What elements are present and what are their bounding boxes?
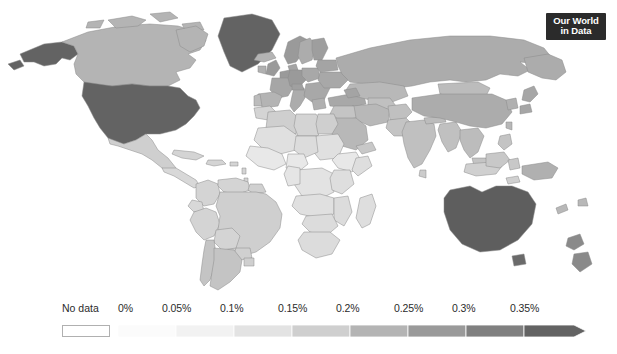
legend-bin-2[interactable] xyxy=(234,325,292,337)
country-japan[interactable] xyxy=(520,86,538,114)
legend-tick-7: 0.35% xyxy=(510,302,539,314)
legend-gradient-bar[interactable] xyxy=(118,325,582,337)
country-fiji[interactable] xyxy=(578,198,588,206)
country-india[interactable] xyxy=(402,120,436,168)
country-bangladesh-myanmar[interactable] xyxy=(438,122,462,152)
map-legend: No data 0%0.05%0.1%0.15%0.2%0.25%0.3%0.3… xyxy=(0,300,617,354)
country-cuba[interactable] xyxy=(172,150,204,160)
country-sulawesi[interactable] xyxy=(508,158,520,170)
legend-gradient-svg xyxy=(118,325,592,337)
country-uk[interactable] xyxy=(266,60,280,76)
choropleth-map-chart: Our World in Data No data 0%0.05%0.1%0.1… xyxy=(0,0,617,354)
country-puerto-rico[interactable] xyxy=(230,162,238,166)
country-south-africa[interactable] xyxy=(298,232,340,258)
our-world-in-data-logo[interactable]: Our World in Data xyxy=(546,13,606,40)
country-italy[interactable] xyxy=(290,88,306,112)
country-new-zealand[interactable] xyxy=(566,234,592,272)
legend-tick-6: 0.3% xyxy=(452,302,476,314)
country-tasmania[interactable] xyxy=(512,254,526,266)
legend-no-data-label: No data xyxy=(62,302,99,314)
legend-tick-3: 0.15% xyxy=(278,302,307,314)
legend-tick-5: 0.25% xyxy=(394,302,423,314)
country-argentina[interactable] xyxy=(210,248,242,290)
country-new-caledonia[interactable] xyxy=(556,204,568,214)
country-alaska[interactable] xyxy=(8,42,78,70)
country-russia-far-east[interactable] xyxy=(524,54,566,80)
country-hispaniola[interactable] xyxy=(206,160,226,166)
country-belarus-baltics[interactable] xyxy=(316,60,338,72)
country-timor[interactable] xyxy=(506,176,520,184)
country-uruguay[interactable] xyxy=(244,258,254,266)
legend-tick-labels: No data 0%0.05%0.1%0.15%0.2%0.25%0.3%0.3… xyxy=(0,300,617,320)
country-united-states[interactable] xyxy=(82,82,200,144)
country-mozambique[interactable] xyxy=(334,196,352,226)
country-philippines[interactable] xyxy=(498,134,512,150)
country-alps-region[interactable] xyxy=(292,84,304,90)
country-cameroon-gabon[interactable] xyxy=(284,166,300,186)
country-korea[interactable] xyxy=(506,98,518,110)
country-greece[interactable] xyxy=(312,98,326,110)
country-ireland[interactable] xyxy=(258,66,266,74)
logo-line-2: in Data xyxy=(561,26,592,36)
country-taiwan[interactable] xyxy=(506,122,512,130)
legend-bin-0[interactable] xyxy=(118,325,176,337)
legend-bin-5[interactable] xyxy=(408,325,466,337)
country-australia[interactable] xyxy=(444,186,536,252)
country-papua-new-guinea[interactable] xyxy=(522,162,558,180)
country-borneo[interactable] xyxy=(486,152,510,168)
legend-bin-3[interactable] xyxy=(292,325,350,337)
legend-bin-1[interactable] xyxy=(176,325,234,337)
country-thailand-indochina[interactable] xyxy=(460,128,484,158)
legend-tick-2: 0.1% xyxy=(220,302,244,314)
country-central-america[interactable] xyxy=(162,168,200,188)
country-finland[interactable] xyxy=(312,38,328,60)
legend-no-data-swatch[interactable] xyxy=(62,325,110,337)
legend-tick-4: 0.2% xyxy=(336,302,360,314)
country-afghanistan[interactable] xyxy=(388,104,412,120)
country-russia[interactable] xyxy=(336,36,552,88)
world-map-svg[interactable] xyxy=(0,2,617,294)
country-sri-lanka[interactable] xyxy=(419,170,426,178)
world-map[interactable] xyxy=(0,2,617,294)
legend-tick-0: 0% xyxy=(118,302,133,314)
legend-bin-7[interactable] xyxy=(524,325,586,337)
legend-bin-4[interactable] xyxy=(350,325,408,337)
legend-tick-1: 0.05% xyxy=(162,302,191,314)
country-madagascar[interactable] xyxy=(356,194,376,228)
country-kenya-tanzania[interactable] xyxy=(330,170,354,194)
legend-bin-6[interactable] xyxy=(466,325,524,337)
